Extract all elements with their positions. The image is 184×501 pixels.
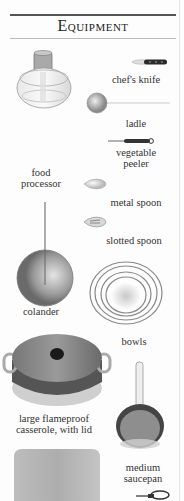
label-line: saucepan xyxy=(110,473,176,484)
header-rule-bottom xyxy=(10,38,176,39)
saucepan-icon xyxy=(114,360,168,450)
food-processor-label: food processor xyxy=(8,167,74,189)
saucepan-label: medium saucepan xyxy=(110,462,176,484)
chefs-knife-label: chef's knife xyxy=(96,74,176,85)
scissors-icon xyxy=(136,490,170,501)
baking-tray-icon xyxy=(14,449,100,501)
label-line: large flameproof xyxy=(4,413,104,424)
bowls-icon xyxy=(88,260,164,326)
header-rule-top xyxy=(10,14,176,16)
peeler-icon xyxy=(108,138,154,144)
label-line: medium xyxy=(110,462,176,473)
casserole-label: large flameproof casserole, with lid xyxy=(4,413,104,435)
metal-spoon-icon xyxy=(82,177,110,191)
ladle-label: ladle xyxy=(96,118,176,129)
label-line: peeler xyxy=(96,158,176,169)
vegetable-peeler-label: vegetable peeler xyxy=(96,147,176,169)
colander-icon xyxy=(14,200,76,310)
colander-label: colander xyxy=(8,306,74,317)
ladle-icon xyxy=(86,92,172,114)
label-line: vegetable xyxy=(96,147,176,158)
casserole-icon xyxy=(2,330,112,410)
slotted-spoon-label: slotted spoon xyxy=(90,235,178,246)
metal-spoon-label: metal spoon xyxy=(96,197,176,208)
chef-knife-icon xyxy=(132,58,168,66)
label-line: processor xyxy=(8,178,74,189)
page-title: Equipment xyxy=(10,17,176,35)
bowls-label: bowls xyxy=(104,336,164,347)
slotted-spoon-icon xyxy=(82,215,110,229)
equipment-page: Equipment food processor chef's knife xyxy=(0,0,184,501)
label-line: casserole, with lid xyxy=(4,424,104,435)
page-edge xyxy=(179,0,180,501)
label-line: food xyxy=(8,167,74,178)
food-processor-icon xyxy=(14,50,76,116)
